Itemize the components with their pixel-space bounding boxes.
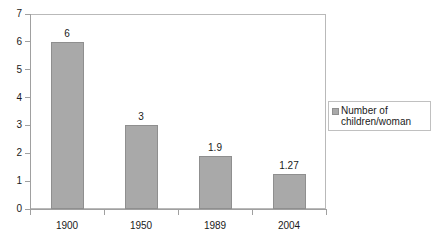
y-axis-label: 3 — [0, 120, 22, 130]
bar-chart: 01234567 631.91.27 1900195019892004 Numb… — [0, 0, 436, 242]
x-axis-label: 1900 — [30, 220, 104, 231]
y-axis-label: 0 — [0, 204, 22, 214]
x-axis-label: 2004 — [252, 220, 326, 231]
value-axis-line — [30, 14, 31, 210]
legend-label-line2: children/woman — [341, 116, 411, 127]
x-axis-label: 1950 — [104, 220, 178, 231]
y-axis-label: 4 — [0, 93, 22, 103]
y-axis-tick — [25, 97, 30, 98]
y-axis-label: 7 — [0, 9, 22, 19]
legend: Number of children/woman — [328, 101, 431, 131]
legend-label-line1: Number of — [341, 105, 388, 116]
y-axis-label: 1 — [0, 176, 22, 186]
bar-value-label: 3 — [104, 111, 178, 122]
y-axis-tick — [25, 69, 30, 70]
x-axis-tick — [178, 210, 179, 215]
legend-swatch-icon — [332, 108, 339, 115]
x-axis-label: 1989 — [178, 220, 252, 231]
bar-value-label: 1.9 — [178, 142, 252, 153]
x-axis-tick — [326, 210, 327, 215]
y-axis-label: 6 — [0, 37, 22, 47]
y-axis-label: 2 — [0, 148, 22, 158]
y-axis-tick — [25, 181, 30, 182]
bar-value-label: 6 — [30, 28, 104, 39]
y-axis-tick — [25, 125, 30, 126]
bar — [125, 125, 158, 209]
y-axis-tick — [25, 153, 30, 154]
x-axis-tick — [104, 210, 105, 215]
x-axis-tick — [252, 210, 253, 215]
y-axis-label: 5 — [0, 65, 22, 75]
bar-value-label: 1.27 — [252, 160, 326, 171]
legend-label: Number of children/woman — [341, 105, 411, 127]
y-axis-tick — [25, 41, 30, 42]
bar — [199, 156, 232, 209]
x-axis-tick — [30, 210, 31, 215]
bar — [51, 42, 84, 209]
y-axis-tick — [25, 14, 30, 15]
bar — [273, 174, 306, 209]
